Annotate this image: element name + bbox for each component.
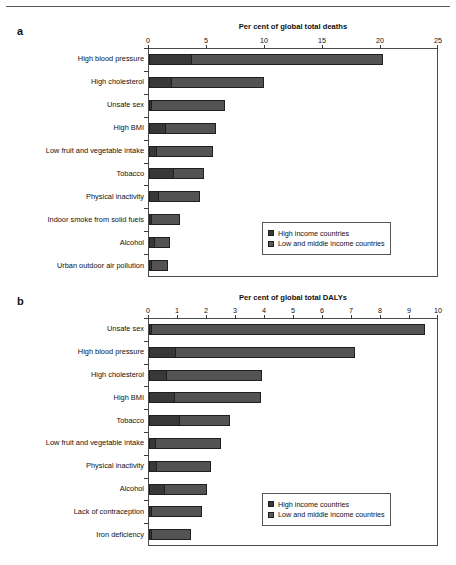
- x-axis-tick-mark: [264, 45, 265, 49]
- bar-segment-high-income: [149, 168, 173, 179]
- x-axis-tick-mark: [322, 315, 323, 319]
- category-label: High BMI: [114, 123, 144, 132]
- bar-segment-low-middle-income: [175, 347, 355, 358]
- stacked-bar: [149, 370, 262, 381]
- bar-segment-low-middle-income: [151, 100, 225, 111]
- legend-item-high-income: High income countries: [268, 229, 385, 238]
- category-label: High cholesterol: [91, 370, 144, 379]
- bar-segment-low-middle-income: [191, 54, 384, 65]
- bar-segment-high-income: [149, 415, 179, 426]
- legend-label: High income countries: [278, 500, 349, 509]
- figure-page: a Per cent of global total deaths 051015…: [0, 0, 456, 565]
- chart-legend: High income countriesLow and middle inco…: [262, 493, 391, 526]
- bar-segment-high-income: [149, 484, 164, 495]
- bar-segment-high-income: [149, 461, 156, 472]
- legend-label: High income countries: [278, 229, 349, 238]
- legend-item-low-income: Low and middle income countries: [268, 239, 385, 248]
- panel-b-letter: b: [17, 295, 24, 307]
- category-label: High BMI: [114, 393, 144, 402]
- x-axis-tick-mark: [148, 315, 149, 319]
- y-axis-tick-mark: [144, 318, 148, 319]
- category-label: Indoor smoke from solid fuels: [47, 215, 144, 224]
- bar-segment-low-middle-income: [151, 529, 192, 540]
- stacked-bar: [149, 260, 168, 271]
- category-label: Low fruit and vegetable intake: [46, 146, 144, 155]
- legend-swatch-high-income-icon: [268, 501, 274, 507]
- category-label: Alcohol: [120, 484, 144, 493]
- bar-segment-high-income: [149, 370, 166, 381]
- y-axis-tick-mark: [144, 71, 148, 72]
- legend-swatch-low-income-icon: [268, 512, 274, 518]
- y-axis-tick-mark: [144, 254, 148, 255]
- bar-segment-low-middle-income: [156, 146, 213, 157]
- bar-segment-low-middle-income: [156, 461, 211, 472]
- stacked-bar: [149, 191, 200, 202]
- stacked-bar: [149, 237, 170, 248]
- y-axis-tick-mark: [144, 341, 148, 342]
- y-axis-tick-mark: [144, 409, 148, 410]
- x-axis-tick-mark: [322, 45, 323, 49]
- x-axis-tick-mark: [380, 315, 381, 319]
- x-axis-tick-mark: [148, 45, 149, 49]
- stacked-bar: [149, 214, 180, 225]
- y-axis-tick-mark: [144, 140, 148, 141]
- x-axis-tick-mark: [206, 45, 207, 49]
- y-axis-tick-mark: [144, 208, 148, 209]
- bar-segment-low-middle-income: [151, 260, 168, 271]
- stacked-bar: [149, 168, 204, 179]
- bar-segment-low-middle-income: [165, 123, 216, 134]
- panel-a-letter: a: [17, 25, 23, 37]
- y-axis-tick-mark: [144, 386, 148, 387]
- y-axis-tick-mark: [144, 500, 148, 501]
- x-axis-tick-mark: [437, 45, 438, 49]
- bar-segment-low-middle-income: [151, 506, 203, 517]
- category-label: High blood pressure: [78, 54, 144, 63]
- bar-segment-low-middle-income: [166, 370, 262, 381]
- bar-segment-high-income: [149, 146, 156, 157]
- x-axis-tick-mark: [293, 315, 294, 319]
- panel-a-axis-title: Per cent of global total deaths: [148, 22, 438, 31]
- stacked-bar: [149, 506, 202, 517]
- x-axis-tick-label: 10: [425, 306, 451, 315]
- y-axis-tick-mark: [144, 94, 148, 95]
- bar-segment-low-middle-income: [179, 415, 230, 426]
- x-axis-tick-mark: [177, 315, 178, 319]
- chart-legend: High income countriesLow and middle inco…: [262, 222, 391, 255]
- category-label: Urban outdoor air pollution: [57, 261, 144, 270]
- chart-panel-a: a Per cent of global total deaths 051015…: [0, 0, 456, 285]
- stacked-bar: [149, 324, 425, 335]
- stacked-bar: [149, 529, 191, 540]
- bar-segment-high-income: [149, 77, 171, 88]
- stacked-bar: [149, 54, 383, 65]
- category-label: High cholesterol: [91, 77, 144, 86]
- bar-segment-low-middle-income: [164, 484, 208, 495]
- legend-item-high-income: High income countries: [268, 500, 385, 509]
- x-axis-tick-mark: [206, 315, 207, 319]
- x-axis-tick-mark: [235, 315, 236, 319]
- legend-item-low-income: Low and middle income countries: [268, 510, 385, 519]
- stacked-bar: [149, 347, 355, 358]
- bar-segment-low-middle-income: [151, 324, 425, 335]
- bar-segment-high-income: [149, 54, 191, 65]
- y-axis-tick-mark: [144, 231, 148, 232]
- legend-swatch-high-income-icon: [268, 230, 274, 236]
- bar-segment-low-middle-income: [174, 392, 261, 403]
- stacked-bar: [149, 123, 216, 134]
- x-axis-tick-label: 25: [425, 36, 451, 45]
- category-label: Alcohol: [120, 238, 144, 247]
- y-axis-tick-mark: [144, 48, 148, 49]
- category-label: Low fruit and vegetable intake: [46, 438, 144, 447]
- x-axis-tick-mark: [351, 315, 352, 319]
- chart-panel-b: b Per cent of global total DALYs 0123456…: [0, 285, 456, 565]
- stacked-bar: [149, 484, 207, 495]
- y-axis-tick-mark: [144, 185, 148, 186]
- category-label: Physical inactivity: [86, 192, 144, 201]
- stacked-bar: [149, 415, 230, 426]
- stacked-bar: [149, 77, 264, 88]
- legend-swatch-low-income-icon: [268, 241, 274, 247]
- y-axis-tick-mark: [144, 432, 148, 433]
- stacked-bar: [149, 438, 221, 449]
- stacked-bar: [149, 146, 213, 157]
- bar-segment-low-middle-income: [158, 191, 200, 202]
- legend-label: Low and middle income countries: [278, 239, 385, 248]
